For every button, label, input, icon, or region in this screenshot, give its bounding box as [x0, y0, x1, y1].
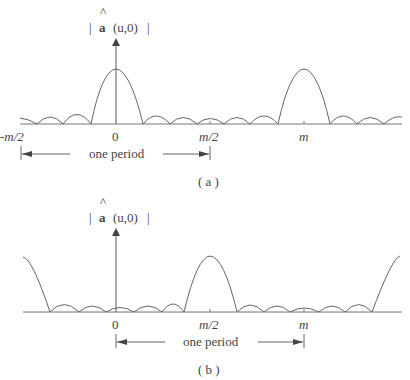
- function-argument: (u,0): [113, 210, 138, 225]
- spectrum-curve-b: [23, 256, 400, 312]
- panel-b: | ^ a (u,0) | 0 m/2 m one period ( b ): [23, 194, 402, 377]
- caption-a: ( a ): [198, 174, 219, 189]
- arrowhead-left-icon: [22, 151, 32, 157]
- hat-symbol: a: [99, 20, 106, 35]
- arrowhead-right-icon: [199, 151, 209, 157]
- abs-bar-right: |: [147, 210, 150, 225]
- fourier-spectrum-diagram: | ^ a (u,0) | -m/2 0 m/2 m one period: [0, 0, 410, 380]
- tick-label-neg-m-half: -m/2: [0, 129, 24, 144]
- abs-bar-right: |: [147, 20, 150, 35]
- y-axis-label-a: | ^ a (u,0) |: [89, 4, 150, 35]
- tick-label-m-half: m/2: [199, 317, 219, 332]
- abs-bar-left: |: [89, 210, 92, 225]
- tick-label-zero: 0: [112, 317, 119, 332]
- panel-a: | ^ a (u,0) | -m/2 0 m/2 m one period: [0, 4, 402, 189]
- hat-symbol: a: [99, 210, 106, 225]
- period-indicator-a: one period: [21, 146, 210, 161]
- arrowhead-left-icon: [117, 339, 127, 345]
- caption-b: ( b ): [198, 362, 220, 377]
- hat-accent: ^: [100, 194, 106, 209]
- function-argument: (u,0): [113, 20, 138, 35]
- period-label: one period: [183, 334, 239, 349]
- y-axis-label-b: | ^ a (u,0) |: [89, 194, 150, 225]
- period-label: one period: [89, 146, 145, 161]
- abs-bar-left: |: [89, 20, 92, 35]
- tick-label-m: m: [299, 317, 308, 332]
- spectrum-curve-a: [20, 69, 402, 124]
- tick-label-m: m: [299, 129, 308, 144]
- tick-label-zero: 0: [112, 129, 119, 144]
- period-indicator-b: one period: [116, 334, 304, 349]
- hat-accent: ^: [100, 4, 106, 19]
- arrowhead-right-icon: [293, 339, 303, 345]
- tick-label-m-half: m/2: [199, 129, 219, 144]
